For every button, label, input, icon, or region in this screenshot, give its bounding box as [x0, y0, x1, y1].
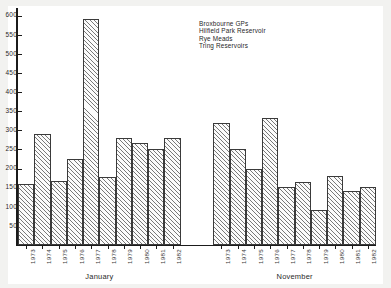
x-tick-label: 1982 — [370, 249, 377, 264]
x-tick-label: 1980 — [338, 249, 345, 264]
group-label: November — [213, 272, 376, 281]
x-tick-mark — [124, 246, 125, 249]
y-tick-label: 100 — [0, 204, 17, 211]
y-tick-label: 50 — [0, 223, 17, 230]
x-tick-mark — [335, 246, 336, 249]
x-tick-mark — [26, 246, 27, 249]
bar — [327, 176, 343, 245]
x-tick-label: 1979 — [126, 249, 133, 264]
x-tick-mark — [221, 246, 222, 249]
bar — [230, 149, 246, 245]
x-tick-mark — [352, 246, 353, 249]
bar — [51, 181, 67, 245]
y-tick-mark — [18, 54, 22, 55]
bar — [148, 149, 164, 245]
bar — [67, 159, 83, 245]
y-tick-mark — [18, 73, 22, 74]
bar — [83, 19, 99, 245]
bar — [262, 118, 278, 245]
x-tick-label: 1978 — [110, 249, 117, 264]
x-tick-mark — [156, 246, 157, 249]
x-tick-label: 1978 — [305, 249, 312, 264]
x-tick-label: 1977 — [289, 249, 296, 264]
y-tick-label: 200 — [0, 165, 17, 172]
bar — [360, 187, 376, 245]
x-tick-label: 1975 — [61, 249, 68, 264]
bar — [132, 143, 148, 245]
bar — [343, 191, 359, 245]
legend-item-3: Tring Reservoirs — [199, 42, 266, 49]
y-tick-label: 300 — [0, 127, 17, 134]
y-tick-mark — [18, 16, 22, 17]
bar — [213, 123, 229, 245]
x-tick-label: 1976 — [78, 249, 85, 264]
chart-figure: 50100150200250300350400450500550600 1973… — [0, 0, 391, 288]
x-tick-mark — [173, 246, 174, 249]
x-tick-label: 1982 — [175, 249, 182, 264]
x-axis-line — [16, 245, 376, 246]
x-tick-mark — [287, 246, 288, 249]
x-tick-mark — [319, 246, 320, 249]
bar — [295, 182, 311, 245]
x-tick-label: 1973 — [224, 249, 231, 264]
bar — [34, 134, 50, 245]
x-tick-mark — [140, 246, 141, 249]
x-tick-label: 1974 — [240, 249, 247, 264]
bar — [99, 177, 115, 245]
x-tick-mark — [270, 246, 271, 249]
x-tick-label: 1980 — [143, 249, 150, 264]
bar — [278, 187, 294, 245]
y-tick-label: 250 — [0, 146, 17, 153]
y-tick-mark — [18, 111, 22, 112]
bar — [18, 184, 34, 245]
x-tick-label: 1975 — [257, 249, 264, 264]
legend-item-1: Hilfield Park Reservoir — [199, 27, 266, 34]
x-tick-mark — [59, 246, 60, 249]
bar — [116, 138, 132, 245]
x-tick-label: 1974 — [45, 249, 52, 264]
y-tick-mark — [18, 130, 22, 131]
y-tick-label: 450 — [0, 70, 17, 77]
x-tick-label: 1981 — [354, 249, 361, 264]
y-tick-label: 350 — [0, 108, 17, 115]
y-tick-label: 600 — [0, 12, 17, 19]
bar — [311, 210, 327, 245]
x-tick-label: 1981 — [159, 249, 166, 264]
x-tick-mark — [238, 246, 239, 249]
group-label: January — [18, 272, 181, 281]
y-tick-mark — [18, 92, 22, 93]
x-tick-label: 1973 — [29, 249, 36, 264]
x-tick-mark — [42, 246, 43, 249]
y-tick-mark — [18, 169, 22, 170]
bar — [246, 169, 262, 245]
x-tick-mark — [108, 246, 109, 249]
bar — [164, 138, 180, 245]
legend-item-2: Rye Meads — [199, 35, 266, 42]
legend: Broxbourne GPs Hilfield Park Reservoir R… — [199, 20, 266, 50]
y-tick-mark — [18, 149, 22, 150]
y-tick-label: 550 — [0, 32, 17, 39]
x-tick-label: 1979 — [322, 249, 329, 264]
y-tick-mark — [18, 35, 22, 36]
x-tick-mark — [368, 246, 369, 249]
x-tick-mark — [75, 246, 76, 249]
x-tick-mark — [254, 246, 255, 249]
legend-item-0: Broxbourne GPs — [199, 20, 266, 27]
x-tick-label: 1977 — [94, 249, 101, 264]
y-tick-label: 500 — [0, 51, 17, 58]
y-tick-label: 400 — [0, 89, 17, 96]
x-tick-mark — [91, 246, 92, 249]
y-tick-label: 150 — [0, 184, 17, 191]
x-tick-mark — [303, 246, 304, 249]
x-tick-label: 1976 — [273, 249, 280, 264]
